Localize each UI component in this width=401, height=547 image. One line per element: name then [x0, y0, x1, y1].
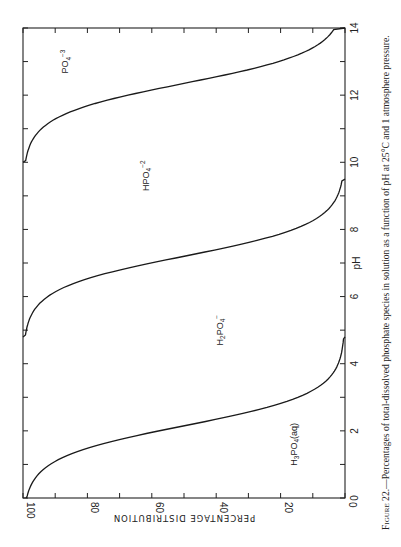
axis-tick-labels: 02468101214020406080100: [25, 22, 360, 519]
figure-caption: Figure 22.—Percentages of total-dissolve…: [380, 35, 391, 530]
pct-tick-label: 40: [218, 502, 229, 514]
pct-tick-label: 100: [25, 502, 36, 519]
pct-tick-label: 0: [347, 502, 358, 508]
species-label-hpo4: HPO4−2: [139, 160, 152, 191]
species-label-h2po4: H2PO4−: [213, 315, 226, 346]
distribution-curve: [23, 179, 345, 337]
pct-tick-label: 60: [154, 502, 165, 514]
distribution-curve: [23, 28, 345, 162]
species-label-po4: PO4−3: [59, 49, 72, 73]
x-axis-title: pH: [351, 257, 362, 270]
ph-tick-label: 4: [349, 360, 360, 366]
distribution-curve: [26, 337, 345, 498]
ph-tick-label: 2: [349, 428, 360, 434]
ph-tick-label: 10: [349, 156, 360, 168]
ph-tick-label: 14: [349, 22, 360, 34]
species-label-h3po4: H3PO4(aq): [289, 423, 301, 466]
phosphate-distribution-chart: 02468101214020406080100 H3PO4(aq)H2PO4−H…: [0, 0, 401, 547]
ph-tick-label: 0: [349, 495, 360, 501]
ph-tick-label: 12: [349, 89, 360, 101]
pct-tick-label: 80: [89, 502, 100, 514]
ph-tick-label: 6: [349, 293, 360, 299]
pct-tick-label: 20: [283, 502, 294, 514]
caption-prefix: Figure 22.: [380, 489, 391, 530]
caption-body: —Percentages of total-dissolved phosphat…: [380, 35, 391, 490]
ph-tick-label: 8: [349, 226, 360, 232]
y-axis-title: PERCENTAGE DISTRIBUTION: [113, 513, 255, 523]
